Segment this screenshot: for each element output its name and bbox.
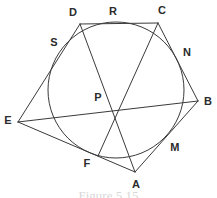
point-label-S: S (50, 37, 58, 48)
cevian-AD (80, 24, 135, 172)
point-label-A: A (132, 179, 140, 190)
side-CB (158, 23, 198, 101)
cevian-EB (18, 101, 198, 122)
point-label-R: R (109, 6, 117, 17)
side-BA (135, 101, 198, 172)
point-label-N: N (183, 47, 191, 58)
side-ED (18, 24, 80, 122)
geometry-figure: D R C S N P E B F M A Figure 5.15 (0, 0, 217, 198)
point-label-E: E (4, 115, 12, 126)
point-label-D: D (69, 7, 77, 18)
figure-caption: Figure 5.15 (0, 189, 217, 198)
point-label-P: P (94, 92, 102, 103)
point-label-F: F (84, 158, 91, 169)
point-label-M: M (170, 142, 179, 153)
geometry-canvas (0, 0, 217, 198)
side-DC (80, 23, 158, 24)
side-AE (18, 122, 135, 172)
point-label-C: C (158, 5, 166, 16)
cevian-CF (98, 23, 158, 156)
point-label-B: B (204, 96, 212, 107)
